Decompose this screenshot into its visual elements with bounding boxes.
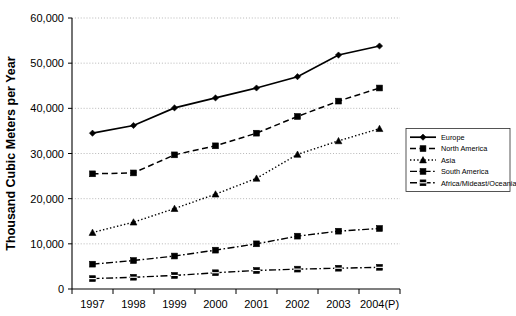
data-point-marker — [335, 52, 341, 58]
legend-label: South America — [441, 167, 489, 176]
data-point-marker — [171, 105, 177, 111]
data-point-marker — [89, 229, 96, 235]
data-point-marker — [89, 130, 95, 136]
series-africa-mideast-oceania — [88, 264, 383, 281]
data-point-marker — [253, 175, 260, 181]
y-tick-label: 50,000 — [30, 57, 64, 69]
x-tick-label: 2003 — [326, 298, 350, 310]
data-point-marker — [254, 241, 260, 247]
line-chart: 010,00020,00030,00040,00050,00060,000 19… — [0, 0, 516, 316]
data-point-marker — [420, 169, 426, 175]
data-point-marker — [420, 146, 426, 152]
series-line — [93, 129, 380, 233]
data-point-marker — [212, 95, 218, 101]
data-point-marker — [171, 205, 178, 211]
data-point-marker — [253, 85, 259, 91]
series-asia — [89, 125, 383, 235]
y-tick-label: 0 — [58, 283, 64, 295]
data-point-marker — [295, 114, 301, 120]
chart-canvas: 010,00020,00030,00040,00050,00060,000 19… — [0, 0, 516, 316]
data-point-marker — [131, 258, 137, 264]
data-point-marker — [336, 228, 342, 234]
y-tick-labels: 010,00020,00030,00040,00050,00060,000 — [30, 12, 64, 295]
y-tick-label: 20,000 — [30, 193, 64, 205]
data-point-marker — [377, 85, 383, 91]
data-point-marker — [336, 98, 342, 104]
data-point-marker — [213, 247, 219, 253]
data-point-marker — [295, 233, 301, 239]
legend-label: Africa/Mideast/Oceania — [441, 179, 516, 188]
y-tick-label: 40,000 — [30, 102, 64, 114]
y-tick-label: 30,000 — [30, 148, 64, 160]
series-group — [88, 43, 383, 282]
data-point-marker — [130, 122, 136, 128]
x-tick-label: 1999 — [162, 298, 186, 310]
y-axis-title: Thousand Cubic Meters per Year — [4, 56, 18, 250]
x-tick-label: 2000 — [203, 298, 227, 310]
data-point-marker — [212, 191, 219, 197]
data-point-marker — [294, 74, 300, 80]
x-tick-label: 2004(P) — [360, 298, 399, 310]
data-point-marker — [130, 219, 137, 225]
data-point-marker — [90, 261, 96, 267]
data-point-marker — [377, 226, 383, 232]
legend-label: Asia — [441, 156, 456, 165]
series-line — [93, 46, 380, 133]
series-north-america — [90, 85, 383, 177]
x-tick-label: 2001 — [244, 298, 268, 310]
x-tick-label: 1998 — [121, 298, 145, 310]
legend-label: Europe — [441, 133, 465, 142]
x-tick-label: 1997 — [80, 298, 104, 310]
x-tick-label: 2002 — [285, 298, 309, 310]
data-point-marker — [213, 143, 219, 149]
y-tick-label: 60,000 — [30, 12, 64, 24]
data-point-marker — [376, 125, 383, 131]
x-tick-labels: 19971998199920002001200220032004(P) — [80, 298, 399, 310]
legend-label: North America — [441, 144, 488, 153]
axes-group — [68, 18, 400, 294]
series-europe — [89, 43, 382, 136]
y-axis-title-text: Thousand Cubic Meters per Year — [4, 56, 18, 250]
data-point-marker — [335, 137, 342, 143]
y-tick-label: 10,000 — [30, 238, 64, 250]
data-point-marker — [90, 171, 96, 177]
data-point-marker — [376, 43, 382, 49]
chart-legend: EuropeNorth AmericaAsiaSouth AmericaAfri… — [406, 129, 516, 192]
data-point-marker — [254, 130, 260, 136]
data-point-marker — [131, 170, 137, 176]
data-point-marker — [294, 151, 301, 157]
data-point-marker — [172, 253, 178, 259]
series-south-america — [90, 226, 383, 267]
data-point-marker — [172, 152, 178, 158]
